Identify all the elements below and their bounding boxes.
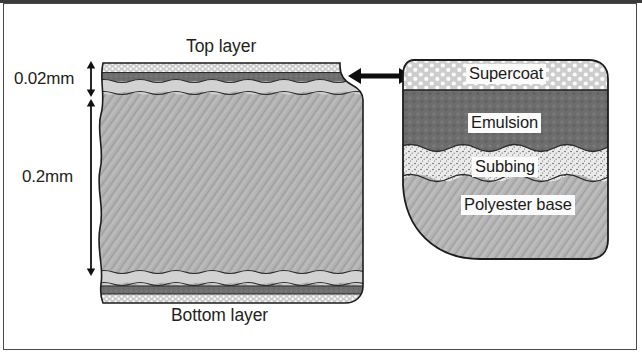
dimension-label-base: 0.2mm — [22, 168, 73, 185]
top-layer-label: Top layer — [186, 38, 256, 56]
diagram-figure: 0.02mm 0.2mm Top layer Bottom layer Supe… — [0, 0, 642, 355]
dimension-arrow-coating — [87, 61, 95, 97]
diagram-canvas — [0, 0, 642, 355]
layer-label-supercoat: Supercoat — [466, 64, 546, 84]
left-sheet-block — [95, 60, 371, 308]
layer-label-polyester-base: Polyester base — [461, 195, 575, 215]
dimension-arrow-base — [87, 99, 95, 276]
layer-label-subbing: Subbing — [472, 157, 538, 177]
bottom-layer-label: Bottom layer — [171, 307, 268, 325]
dimension-label-coating: 0.02mm — [14, 70, 74, 87]
layer-label-emulsion: Emulsion — [468, 113, 541, 133]
